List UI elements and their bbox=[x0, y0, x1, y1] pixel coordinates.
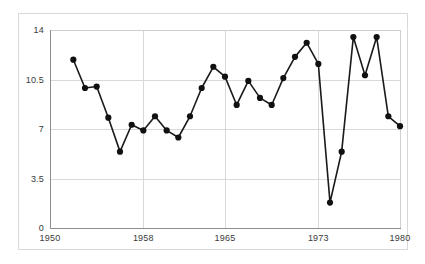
data-point bbox=[164, 127, 170, 133]
data-point bbox=[234, 102, 240, 108]
line-chart: 03.5710.514 19501958196519731980 bbox=[0, 0, 425, 264]
y-tick-label: 10.5 bbox=[26, 75, 44, 85]
data-point bbox=[210, 64, 216, 70]
x-tick-label: 1950 bbox=[40, 233, 61, 243]
series-line bbox=[73, 37, 400, 202]
data-point bbox=[292, 54, 298, 60]
data-point bbox=[82, 85, 88, 91]
data-series bbox=[50, 30, 400, 228]
data-point bbox=[257, 95, 263, 101]
plot-area bbox=[50, 30, 400, 228]
y-tick-label: 0 bbox=[39, 223, 44, 233]
y-tick-label: 7 bbox=[39, 124, 44, 134]
x-axis-tick-labels: 19501958196519731980 bbox=[50, 233, 400, 247]
data-point bbox=[385, 113, 391, 119]
data-point bbox=[175, 134, 181, 140]
data-point bbox=[105, 115, 111, 121]
data-point bbox=[245, 78, 251, 84]
data-point bbox=[397, 123, 403, 129]
data-point bbox=[339, 149, 345, 155]
data-point bbox=[269, 102, 275, 108]
data-point bbox=[70, 57, 76, 63]
x-tick-label: 1980 bbox=[390, 233, 411, 243]
data-point bbox=[350, 34, 356, 40]
data-point bbox=[129, 122, 135, 128]
data-point bbox=[374, 34, 380, 40]
y-axis-tick-labels: 03.5710.514 bbox=[14, 30, 44, 228]
series-markers bbox=[70, 34, 403, 206]
data-point bbox=[140, 127, 146, 133]
figure-border-right bbox=[407, 13, 408, 250]
data-point bbox=[315, 61, 321, 67]
y-tick-label: 14 bbox=[34, 25, 44, 35]
data-point bbox=[152, 113, 158, 119]
data-point bbox=[327, 199, 333, 205]
y-tick-label: 3.5 bbox=[31, 174, 44, 184]
figure-border-top bbox=[18, 13, 408, 14]
data-point bbox=[362, 72, 368, 78]
figure-border-bottom bbox=[18, 249, 408, 250]
data-point bbox=[187, 113, 193, 119]
x-tick-label: 1958 bbox=[133, 233, 154, 243]
x-axis-line bbox=[50, 228, 401, 229]
data-point bbox=[280, 75, 286, 81]
x-tick-label: 1965 bbox=[215, 233, 236, 243]
data-point bbox=[304, 40, 310, 46]
x-tick-label: 1973 bbox=[308, 233, 329, 243]
data-point bbox=[222, 74, 228, 80]
plot-border-right bbox=[400, 30, 401, 229]
data-point bbox=[117, 149, 123, 155]
data-point bbox=[94, 83, 100, 89]
data-point bbox=[199, 85, 205, 91]
